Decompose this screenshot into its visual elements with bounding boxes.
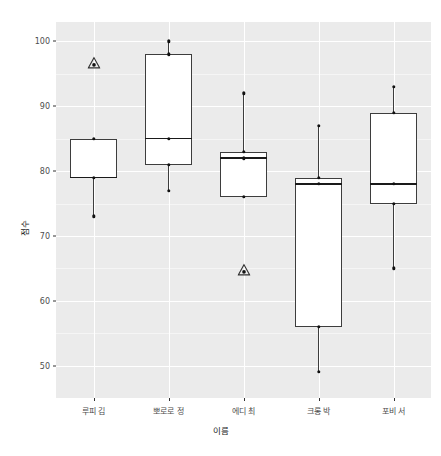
x-axis-tick-mark bbox=[94, 398, 95, 401]
y-axis-tick-mark bbox=[53, 300, 56, 301]
data-point bbox=[392, 85, 395, 88]
y-axis-tick-label: 50 bbox=[20, 361, 50, 370]
data-point bbox=[392, 202, 395, 205]
y-axis-tick-mark bbox=[53, 41, 56, 42]
y-axis-tick-label: 80 bbox=[20, 167, 50, 176]
x-axis-tick-mark bbox=[394, 398, 395, 401]
y-axis-tick-label: 70 bbox=[20, 231, 50, 240]
boxplot-figure: 점수 5060708090100루피 김뽀로로 정에디 최크롱 박포비 서 이름 bbox=[0, 0, 441, 456]
y-axis-tick-mark bbox=[53, 365, 56, 366]
x-axis-tick-mark bbox=[244, 398, 245, 401]
y-axis-tick-mark bbox=[53, 106, 56, 107]
x-axis-tick-mark bbox=[169, 398, 170, 401]
x-axis-tick-label-1: 뽀로로 정 bbox=[153, 405, 184, 416]
x-axis-title: 이름 bbox=[0, 424, 441, 436]
x-axis-tick-label-3: 크롱 박 bbox=[307, 405, 331, 416]
x-axis-tick-label-2: 에디 최 bbox=[232, 405, 256, 416]
boxplot-group bbox=[56, 22, 431, 398]
y-axis-tick-label: 60 bbox=[20, 296, 50, 305]
x-axis-tick-label-0: 루피 김 bbox=[82, 405, 106, 416]
y-axis-tick-label: 90 bbox=[20, 102, 50, 111]
data-point bbox=[392, 267, 395, 270]
y-axis-tick-label: 100 bbox=[20, 37, 50, 46]
y-axis-title: 점수 bbox=[14, 0, 34, 456]
box-rect bbox=[370, 113, 417, 204]
x-axis-tick-label-4: 포비 서 bbox=[382, 405, 406, 416]
y-axis-tick-mark bbox=[53, 171, 56, 172]
y-axis-tick-mark bbox=[53, 235, 56, 236]
plot-panel bbox=[56, 22, 431, 398]
whisker-lower bbox=[393, 204, 394, 269]
x-axis-tick-mark bbox=[319, 398, 320, 401]
whisker-upper bbox=[393, 87, 394, 113]
